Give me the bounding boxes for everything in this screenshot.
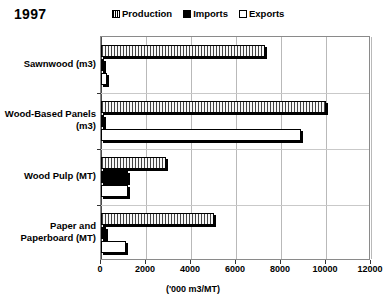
bar-chart: 1997 Production Imports Exports ('000 m3… <box>0 0 386 307</box>
bar-production <box>101 45 265 57</box>
y-tick-mark <box>97 93 101 94</box>
y-category-label: Wood Pulp (MT) <box>4 170 96 182</box>
bar-production <box>101 213 214 225</box>
x-tick-label: 10000 <box>312 264 337 274</box>
legend-item-exports: Exports <box>239 8 284 19</box>
gridline <box>371 37 372 259</box>
bar-exports <box>101 185 128 197</box>
empty-square-icon <box>239 10 247 18</box>
gridline <box>236 37 237 259</box>
chart-title: 1997 <box>14 6 46 22</box>
chart-legend: Production Imports Exports <box>112 8 284 19</box>
gridline <box>191 37 192 259</box>
filled-square-icon <box>183 10 191 18</box>
gridline <box>326 37 327 259</box>
y-category-label: Wood-Based Panels (m3) <box>4 108 96 132</box>
legend-item-imports: Imports <box>183 8 228 19</box>
category-separator <box>101 205 369 206</box>
y-tick-mark <box>97 149 101 150</box>
y-category-label: Paper and Paperboard (MT) <box>4 220 96 244</box>
bar-imports <box>101 227 106 239</box>
x-tick-label: 12000 <box>357 264 382 274</box>
bar-imports <box>101 171 128 183</box>
bar-imports <box>101 59 104 71</box>
bar-exports <box>101 129 301 141</box>
legend-label-exports: Exports <box>249 8 284 19</box>
legend-label-imports: Imports <box>193 8 228 19</box>
category-separator <box>101 149 369 150</box>
legend-label-production: Production <box>122 8 172 19</box>
gridline <box>281 37 282 259</box>
bar-exports <box>101 241 126 253</box>
x-tick-label: 4000 <box>180 264 200 274</box>
x-tick-label: 8000 <box>270 264 290 274</box>
x-tick-label: 2000 <box>135 264 155 274</box>
bar-production <box>101 157 166 169</box>
legend-item-production: Production <box>112 8 172 19</box>
bar-imports <box>101 115 104 127</box>
gridline <box>146 37 147 259</box>
category-separator <box>101 93 369 94</box>
y-tick-mark <box>97 205 101 206</box>
bar-exports <box>101 73 107 85</box>
hatched-square-icon <box>112 10 120 18</box>
x-axis-title: ('000 m3/MT) <box>0 284 386 294</box>
bar-production <box>101 101 326 113</box>
plot-area <box>100 36 370 260</box>
y-category-label: Sawnwood (m3) <box>4 58 96 70</box>
x-tick-label: 0 <box>97 264 102 274</box>
x-tick-label: 6000 <box>225 264 245 274</box>
